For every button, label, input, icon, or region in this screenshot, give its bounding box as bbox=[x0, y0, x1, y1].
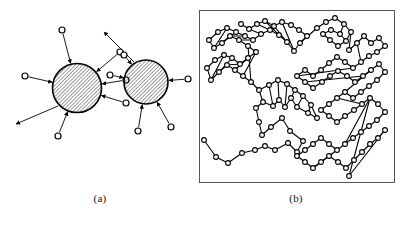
network-node bbox=[293, 88, 298, 93]
network-node bbox=[359, 90, 364, 95]
network-node bbox=[351, 136, 356, 141]
hatched-disk-1 bbox=[53, 64, 102, 113]
outward-arrow-2-1 bbox=[104, 32, 134, 62]
network-node bbox=[285, 82, 290, 87]
network-node bbox=[375, 50, 380, 55]
network-node bbox=[329, 28, 334, 33]
network-node bbox=[343, 142, 348, 147]
network-node bbox=[225, 63, 230, 68]
network-node bbox=[335, 120, 340, 125]
satellite-arrow-1-6 bbox=[59, 112, 67, 133]
network-node bbox=[263, 144, 268, 149]
network-node bbox=[311, 166, 316, 171]
network-node bbox=[361, 74, 366, 79]
network-node bbox=[303, 68, 308, 73]
network-node bbox=[269, 125, 274, 130]
network-node bbox=[327, 142, 332, 147]
network-node bbox=[336, 160, 341, 165]
network-node bbox=[257, 120, 262, 125]
hatched-disk-2 bbox=[124, 60, 168, 104]
particle-group-2 bbox=[104, 32, 191, 134]
network-node bbox=[324, 20, 329, 25]
network-node bbox=[289, 23, 294, 28]
satellite-arrow-1-2 bbox=[97, 55, 117, 72]
network-node bbox=[352, 158, 357, 163]
network-node bbox=[328, 38, 333, 43]
network-node bbox=[347, 174, 352, 179]
network-node bbox=[377, 62, 382, 67]
network-node bbox=[327, 154, 332, 159]
network-node bbox=[368, 96, 373, 101]
network-node bbox=[225, 26, 230, 31]
network-node bbox=[295, 74, 300, 79]
network-node bbox=[319, 136, 324, 141]
network-node bbox=[257, 88, 262, 93]
network-node bbox=[351, 66, 356, 71]
satellite-node-2-3 bbox=[185, 76, 191, 82]
satellite-arrow-1-1 bbox=[63, 34, 71, 63]
network-node bbox=[263, 19, 268, 24]
network-node bbox=[209, 78, 214, 83]
network-node bbox=[336, 44, 341, 49]
network-node bbox=[220, 41, 225, 46]
network-node bbox=[303, 160, 308, 165]
network-node bbox=[375, 78, 380, 83]
network-node bbox=[253, 148, 258, 153]
network-node bbox=[319, 68, 324, 73]
network-node bbox=[320, 80, 325, 85]
network-node bbox=[376, 136, 381, 141]
network-node bbox=[383, 44, 388, 49]
network-node bbox=[285, 40, 290, 45]
satellite-node-2-4 bbox=[135, 128, 141, 134]
network-node bbox=[321, 32, 326, 37]
network-node bbox=[222, 53, 227, 58]
caption-panel-b: (b) bbox=[256, 192, 336, 204]
network-node bbox=[301, 139, 306, 144]
network-node bbox=[240, 151, 245, 156]
network-node bbox=[319, 108, 324, 113]
network-node bbox=[338, 32, 343, 37]
network-node bbox=[276, 78, 281, 83]
network-node bbox=[292, 49, 297, 54]
network-node bbox=[283, 105, 288, 110]
panel-a-content bbox=[16, 27, 191, 139]
network-node bbox=[297, 28, 302, 33]
network-node bbox=[217, 70, 222, 75]
network-node bbox=[347, 48, 352, 53]
panel-b-container bbox=[199, 10, 395, 183]
network-node bbox=[327, 102, 332, 107]
network-node bbox=[216, 30, 221, 35]
network-node bbox=[247, 27, 252, 32]
network-node bbox=[271, 104, 276, 109]
network-node bbox=[336, 69, 341, 74]
network-node bbox=[255, 22, 260, 27]
panel-b-svg bbox=[199, 10, 395, 183]
network-node bbox=[277, 98, 282, 103]
network-node bbox=[268, 28, 273, 33]
network-node bbox=[205, 66, 210, 71]
network-node bbox=[335, 96, 340, 101]
network-node bbox=[286, 141, 291, 146]
satellite-arrow-2-5 bbox=[157, 102, 169, 123]
network-node bbox=[311, 142, 316, 147]
network-node bbox=[301, 94, 306, 99]
network-node bbox=[207, 38, 212, 43]
network-node bbox=[289, 96, 294, 101]
network-node bbox=[353, 80, 358, 85]
network-node bbox=[315, 26, 320, 31]
network-node bbox=[277, 33, 282, 38]
satellite-node-1-4 bbox=[123, 100, 129, 106]
network-node bbox=[261, 100, 266, 105]
satellite-node-1-1 bbox=[59, 27, 65, 33]
satellite-arrow-1-3 bbox=[102, 81, 122, 84]
network-node bbox=[239, 22, 244, 27]
figure-root: (a) (b) bbox=[0, 0, 407, 225]
network-node bbox=[383, 70, 388, 75]
satellite-arrow-2-2 bbox=[114, 76, 123, 78]
network-node bbox=[237, 38, 242, 43]
satellite-arrow-2-4 bbox=[139, 105, 143, 127]
network-node bbox=[376, 102, 381, 107]
network-node bbox=[343, 90, 348, 95]
network-node bbox=[367, 84, 372, 89]
network-node bbox=[335, 148, 340, 153]
